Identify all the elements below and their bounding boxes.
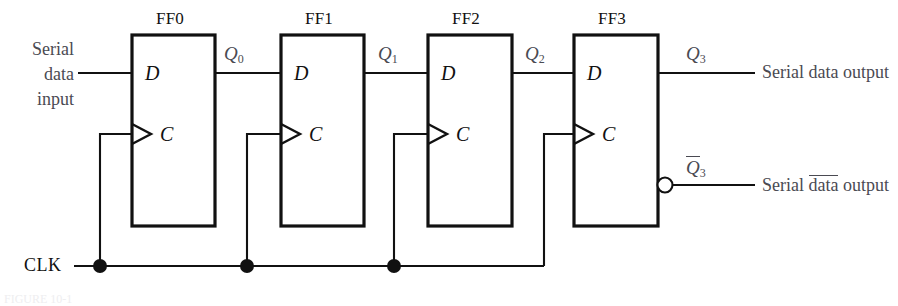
flipflop-title-ff2: FF2 (452, 10, 480, 27)
signal-label-q0: Q0 (224, 44, 244, 65)
wire-clk-branch-ff1 (247, 134, 281, 266)
flipflop-title-ff0: FF0 (156, 10, 184, 27)
circuit-schematic-svg (0, 0, 898, 306)
signal-label-q2-subscript: 2 (539, 52, 545, 66)
signal-label-q3-not-letter: Q (686, 156, 700, 177)
shift-register-diagram: FF0 FF1 FF2 FF3 D D D D C C C C Q0 Q1 Q2… (0, 0, 898, 306)
flipflop-title-ff3: FF3 (598, 10, 626, 27)
signal-label-q3-subscript: 3 (700, 52, 706, 66)
flipflop-title-ff1: FF1 (305, 10, 333, 27)
pin-label-c-ff2: C (456, 124, 469, 144)
junction-dot-ff0 (93, 259, 107, 273)
serial-data-not-output-bar-word: data (809, 175, 839, 195)
pin-label-c-ff3: C (602, 124, 615, 144)
pin-label-d-ff0: D (145, 63, 159, 83)
serial-data-not-output-pre: Serial (762, 175, 809, 195)
serial-data-input-line1: Serial (0, 37, 74, 62)
serial-data-input-line2: data (0, 62, 74, 87)
signal-label-q0-subscript: 0 (238, 52, 244, 66)
inverting-output-bubble (658, 178, 673, 193)
serial-data-not-output-label: Serial data output (762, 175, 889, 195)
pin-label-d-ff3: D (587, 63, 601, 83)
pin-label-d-ff1: D (294, 63, 308, 83)
serial-data-input-label: Serial data input (0, 37, 74, 112)
pin-label-c-ff0: C (160, 124, 173, 144)
signal-label-q3-not: Q3 (686, 156, 706, 179)
wire-clk-branch-ff3 (544, 134, 574, 266)
signal-label-q3: Q3 (686, 44, 706, 65)
junction-dot-ff2 (387, 259, 401, 273)
serial-data-input-line3: input (0, 87, 74, 112)
figure-caption: FIGURE 10-1 (4, 292, 72, 306)
signal-label-q1-subscript: 1 (392, 52, 398, 66)
pin-label-d-ff2: D (441, 63, 455, 83)
serial-data-not-output-post: output (838, 175, 889, 195)
signal-label-q2-letter: Q (525, 43, 539, 64)
wire-clk-branch-ff0 (100, 134, 132, 266)
clk-label: CLK (24, 256, 62, 274)
serial-data-output-label: Serial data output (762, 63, 889, 81)
junction-dot-ff1 (240, 259, 254, 273)
signal-label-q3-letter: Q (686, 43, 700, 64)
signal-label-q1: Q1 (378, 44, 398, 65)
signal-label-q2: Q2 (525, 44, 545, 65)
signal-label-q0-letter: Q (224, 43, 238, 64)
wire-clk-branch-ff2 (394, 134, 428, 266)
signal-label-q1-letter: Q (378, 43, 392, 64)
signal-label-q3-not-subscript: 3 (700, 166, 706, 180)
pin-label-c-ff1: C (309, 124, 322, 144)
